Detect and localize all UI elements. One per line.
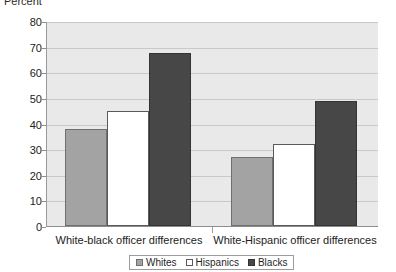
y-tick-label-20: 20 [16,171,42,182]
gridline-70 [47,48,378,49]
y-axis-title: Percent [4,0,42,7]
bar-whites-white-hispanic [231,157,273,226]
y-tick-label-80: 80 [16,17,42,28]
legend-swatch-blacks-icon [248,259,255,266]
y-tick-label-10: 10 [16,196,42,207]
y-tick-label-40: 40 [16,120,42,131]
legend-label-blacks: Blacks [258,258,287,268]
y-tick-mark-0 [41,227,46,228]
y-tick-label-70: 70 [16,43,42,54]
y-tick-label-30: 30 [16,145,42,156]
legend-item-blacks: Blacks [248,258,287,268]
chart-plot-area [46,22,378,227]
gridline-50 [47,99,378,100]
y-tick-label-60: 60 [16,68,42,79]
gridline-80 [47,22,378,23]
y-tick-label-0: 0 [16,222,42,233]
legend-item-whites: Whites [136,258,177,268]
bar-blacks-white-hispanic [315,101,357,226]
bar-hispanics-white-hispanic [273,144,315,226]
gridline-60 [47,73,378,74]
category-separator-tick [212,227,213,233]
legend-swatch-hispanics-icon [186,259,193,266]
legend-label-hispanics: Hispanics [196,258,239,268]
chart-legend: Whites Hispanics Blacks [129,255,294,270]
bar-whites-white-black [65,129,107,226]
legend-label-whites: Whites [146,258,177,268]
y-tick-label-50: 50 [16,94,42,105]
legend-swatch-whites-icon [136,259,143,266]
bar-blacks-white-black [149,53,191,226]
bar-hispanics-white-black [107,111,149,226]
x-category-label-white-black: White-black officer differences [46,234,212,246]
x-category-label-white-hispanic: White-Hispanic officer differences [212,234,378,246]
legend-item-hispanics: Hispanics [186,258,239,268]
